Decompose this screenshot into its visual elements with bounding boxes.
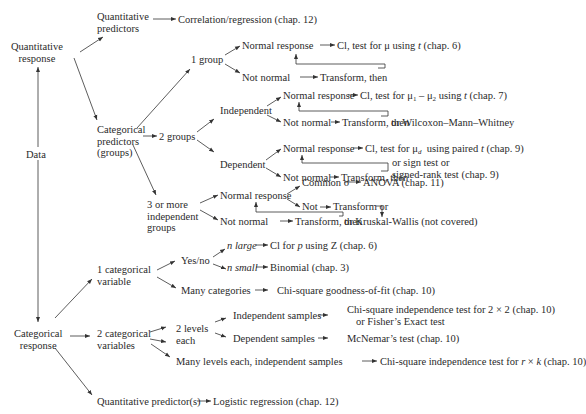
one-categorical-line1: 1 categorical	[97, 264, 151, 276]
dependent-samples-node: Dependent samples	[233, 333, 315, 345]
independent-node: Independent	[220, 105, 272, 117]
three-groups-line3: groups	[147, 222, 198, 234]
quantitative-response-line2: response	[11, 53, 63, 65]
common-sigma-node: Common σ	[302, 177, 349, 189]
quantitative-response-line1: Quantitative	[11, 41, 63, 53]
independent-not-normal-node: Not normal	[283, 117, 331, 129]
two-levels-line2: each	[176, 335, 208, 347]
independent-samples-node: Independent samples	[233, 310, 321, 322]
one-group-transform-node: Transform, then	[320, 72, 387, 84]
three-or-more-groups-node: 3 or more independent groups	[147, 199, 198, 234]
quantitative-predictors-cat-node: Quantitative predictor(s)	[97, 396, 201, 408]
binomial-result: Binomial (chap. 3)	[270, 262, 349, 274]
one-categorical-line2: variable	[97, 276, 151, 288]
categorical-predictors-line1: Categorical	[97, 124, 145, 136]
categorical-response-line2: response	[14, 340, 62, 352]
categorical-predictors-line3: (groups)	[97, 147, 145, 159]
sign-test-line1: or sign test or	[392, 157, 499, 169]
three-groups-normal-node: Normal response	[220, 190, 291, 202]
two-categorical-variables-node: 2 categorical variables	[97, 328, 151, 351]
many-categories-node: Many categories	[181, 285, 251, 297]
one-group-not-normal-node: Not normal	[242, 72, 290, 84]
correlation-regression-result: Correlation/regression (chap. 12)	[178, 14, 317, 26]
yes-no-node: Yes/no	[181, 255, 210, 267]
fisher-exact-line: or Fisher’s Exact test	[347, 316, 555, 328]
goodness-of-fit-result: Chi-square goodness-of-fit (chap. 10)	[277, 285, 435, 297]
quantitative-predictors-line2: predictors	[97, 23, 149, 35]
data-node: Data	[26, 149, 46, 161]
one-categorical-variable-node: 1 categorical variable	[97, 264, 151, 287]
n-large-node: n large	[227, 240, 257, 252]
one-group-t-test-result: Cl, test for μ using t (chap. 6)	[337, 40, 461, 52]
two-levels-each-node: 2 levels each	[176, 323, 208, 346]
two-categorical-line2: variables	[97, 340, 151, 352]
transform-or-node: Transform or	[333, 201, 388, 213]
anova-result: ANOVA (chap. 11)	[363, 177, 444, 189]
chi-square-2x2-line1: Chi-square independence test for 2 × 2 (…	[347, 304, 555, 316]
quantitative-response-node: Quantitative response	[11, 41, 63, 64]
z-test-result: Cl for p using Z (chap. 6)	[270, 240, 377, 252]
chi-square-2x2-result: Chi-square independence test for 2 × 2 (…	[347, 304, 555, 327]
kruskal-wallis-result: or Kruskal-Wallis (not covered)	[344, 216, 478, 228]
quantitative-predictors-line1: Quantitative	[97, 11, 149, 23]
mcnemar-result: McNemar’s test (chap. 10)	[347, 333, 459, 345]
categorical-response-line1: Categorical	[14, 328, 62, 340]
one-group-normal-node: Normal response	[242, 40, 313, 52]
n-small-node: n small	[227, 262, 258, 274]
dependent-normal-node: Normal response	[283, 143, 354, 155]
categorical-response-node: Categorical response	[14, 328, 62, 351]
categorical-predictors-node: Categorical predictors (groups)	[97, 124, 145, 159]
chi-square-rxk-result: Chi-square independence test for r × k (…	[380, 356, 586, 368]
three-groups-line2: independent	[147, 211, 198, 223]
one-group-node: 1 group	[191, 54, 223, 66]
dependent-node: Dependent	[220, 159, 265, 171]
three-groups-line1: 3 or more	[147, 199, 198, 211]
independent-normal-node: Normal response	[283, 90, 354, 102]
quantitative-predictors-node: Quantitative predictors	[97, 11, 149, 34]
two-groups-node: 2 groups	[159, 131, 195, 143]
logistic-regression-result: Logistic regression (chap. 12)	[213, 396, 338, 408]
two-categorical-line1: 2 categorical	[97, 328, 151, 340]
categorical-predictors-line2: predictors	[97, 136, 145, 148]
not-common-sigma-node: Not	[302, 201, 318, 213]
two-levels-line1: 2 levels	[176, 323, 208, 335]
many-levels-node: Many levels each, independent samples	[176, 356, 343, 368]
three-groups-not-normal-node: Not normal	[220, 216, 268, 228]
wilcoxon-result: or Wilcoxon–Mann–Whitney	[391, 117, 514, 129]
independent-t-test-result: Cl, test for μ1 – μ2 using t (chap. 7)	[360, 90, 507, 106]
